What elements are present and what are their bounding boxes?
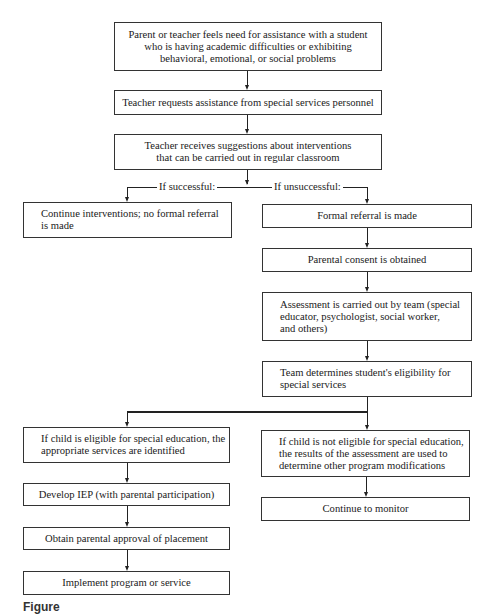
connector-line [127,550,128,566]
step-continue-monitor-text: Continue to monitor [323,503,409,515]
step-parental-approval-text: Obtain parental approval of placement [45,533,208,545]
step-suggestions-line-2: that can be carried out in regular class… [145,152,352,164]
step-continue-monitor-box: Continue to monitor [261,497,470,521]
step-eligible-box: If child is eligible for special educati… [23,427,230,463]
branch-line-right-drop [367,187,368,199]
connector-line [367,228,368,243]
step-eligibility-line-2: special services [280,379,451,391]
step-need-line-2: who is having academic difficulties or e… [128,41,367,53]
step-suggestions-box: Teacher receives suggestions about inter… [114,134,382,170]
step-continue-interventions-box: Continue interventions; no formal referr… [23,202,232,238]
step-parental-consent-box: Parental consent is obtained [262,248,472,272]
connector-line [127,506,128,522]
step-assessment-line-2: educator, psychologist, social worker, [280,311,460,323]
step-assessment-line-3: and others) [280,323,460,335]
step-not-eligible-line-1: If child is not eligible for special edu… [279,436,464,448]
connector-line [367,272,368,287]
figure-caption: Figure [23,600,60,614]
connector-line [367,341,368,356]
branch-line-horizontal [127,411,368,413]
step-eligibility-box: Team determines student's eligibility fo… [262,361,472,397]
branch-line-left-drop [127,411,128,422]
step-assessment-box: Assessment is carried out by team (speci… [262,292,472,341]
step-not-eligible-box: If child is not eligible for special edu… [261,430,470,477]
step-implement-box: Implement program or service [23,571,230,595]
step-formal-referral-text: Formal referral is made [317,210,417,222]
step-assessment-line-1: Assessment is carried out by team (speci… [280,299,460,311]
step-develop-iep-text: Develop IEP (with parental participation… [39,489,215,501]
step-parental-consent-text: Parental consent is obtained [308,254,427,266]
step-suggestions-line-1: Teacher receives suggestions about inter… [145,140,352,152]
step-implement-text: Implement program or service [62,577,191,589]
connector-line [247,115,248,129]
branch-label-successful: If successful: [157,181,217,193]
step-need-line-1: Parent or teacher feels need for assista… [128,29,367,41]
connector-line [127,463,128,478]
step-eligible-line-1: If child is eligible for special educati… [41,433,225,445]
step-formal-referral-box: Formal referral is made [262,204,472,228]
step-eligibility-line-1: Team determines student's eligibility fo… [280,367,451,379]
step-parental-approval-box: Obtain parental approval of placement [23,527,230,550]
step-develop-iep-box: Develop IEP (with parental participation… [23,483,230,506]
step-continue-interventions-line-1: Continue interventions; no formal referr… [41,208,219,220]
step-not-eligible-line-3: determine other program modifications [279,460,464,472]
step-request-text: Teacher requests assistance from special… [122,97,374,109]
step-need-line-3: behavioral, emotional, or social problem… [128,53,367,65]
step-need-box: Parent or teacher feels need for assista… [114,22,382,71]
step-not-eligible-line-2: the results of the assessment are used t… [279,448,464,460]
branch-label-unsuccessful: If unsuccessful: [272,181,343,193]
connector-line [247,71,248,85]
connector-line [366,477,367,492]
step-request-box: Teacher requests assistance from special… [114,90,382,115]
step-continue-interventions-line-2: is made [41,220,219,232]
step-eligible-line-2: appropriate services are identified [41,445,225,457]
arrow-down-icon [245,180,249,185]
